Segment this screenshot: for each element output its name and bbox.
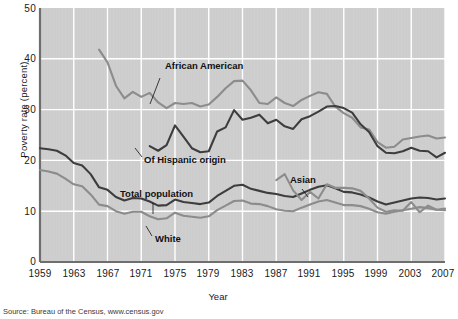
poverty-rate-line-chart: Poverty rate (percent) 50 40 30 20 10 0 … — [0, 0, 458, 319]
series-label-african-american: African American — [165, 60, 243, 71]
series-label-white: White — [155, 233, 181, 244]
series-label-hispanic: Of Hispanic origin — [144, 154, 226, 165]
series-label-asian: Asian — [290, 174, 316, 185]
series-label-total-population: Total population — [120, 188, 193, 199]
plot-area — [0, 0, 458, 319]
source-note: Source: Bureau of the Census, www.census… — [3, 307, 164, 316]
